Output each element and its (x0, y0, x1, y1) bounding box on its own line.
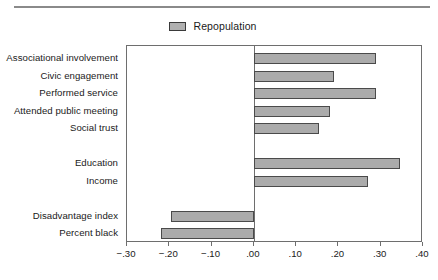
category-label: Social trust (70, 122, 118, 133)
bar-associational-involvement (254, 53, 377, 64)
axis-tick (380, 242, 381, 246)
bar-row (127, 106, 421, 117)
axis-tick-label: .10 (288, 248, 301, 259)
bar-education (254, 158, 400, 169)
bar-row (127, 176, 421, 187)
bar-attended-public-meeting (254, 106, 330, 117)
plot-area (126, 45, 422, 242)
bar-income (254, 176, 368, 187)
axis-tick-label: −.10 (201, 248, 220, 259)
category-label: Disadvantage index (33, 210, 118, 221)
category-axis-labels: Associational involvementCivic engagemen… (0, 45, 122, 242)
axis-tick-label: −.30 (117, 248, 136, 259)
axis-tick (168, 242, 169, 246)
axis-tick-label: .20 (331, 248, 344, 259)
axis-tick-label: .00 (246, 248, 259, 259)
top-rule-divider (14, 6, 430, 8)
category-label: Civic engagement (40, 70, 118, 81)
axis-tick (253, 242, 254, 246)
bar-row (127, 158, 421, 169)
legend-label: Repopulation (193, 20, 256, 32)
category-label: Education (75, 157, 118, 168)
category-label: Attended public meeting (14, 105, 118, 116)
bar-row (127, 211, 421, 222)
bar-performed-service (254, 88, 377, 99)
legend-entry-repopulation: Repopulation (169, 20, 256, 32)
bar-row (127, 71, 421, 82)
axis-tick-label: .30 (373, 248, 386, 259)
repopulation-swatch-icon (169, 22, 186, 31)
bar-civic-engagement (254, 71, 334, 82)
bar-percent-black (161, 228, 254, 239)
bar-row (127, 123, 421, 134)
category-label: Associational involvement (6, 52, 118, 63)
bar-row (127, 53, 421, 64)
bar-row (127, 88, 421, 99)
axis-tick (211, 242, 212, 246)
chart-legend: Repopulation (0, 20, 438, 32)
axis-tick (126, 242, 127, 246)
axis-tick (337, 242, 338, 246)
axis-tick (422, 242, 423, 246)
axis-tick-label: −.20 (159, 248, 178, 259)
axis-tick (295, 242, 296, 246)
axis-tick-label: .40 (415, 248, 428, 259)
chart-figure: Repopulation Associational involvementCi… (0, 0, 438, 280)
category-label: Income (86, 175, 118, 186)
bar-social-trust (254, 123, 320, 134)
category-label: Percent black (59, 227, 118, 238)
category-label: Performed service (39, 87, 118, 98)
bar-row (127, 228, 421, 239)
bar-disadvantage-index (171, 211, 253, 222)
